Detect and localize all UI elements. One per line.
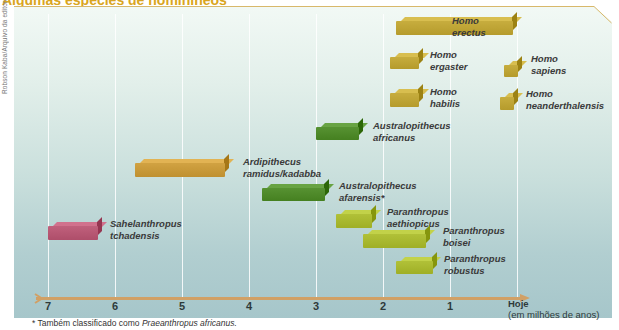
species-label-line2: afarensis*: [339, 192, 384, 203]
species-label-line1: Australopithecus: [373, 120, 451, 131]
species-bar: [504, 61, 522, 77]
species-label: Homosapiens: [531, 53, 566, 76]
species-label-line1: Paranthropus: [443, 225, 505, 236]
species-label: Ardipithecusramidus/kadabba: [243, 156, 321, 179]
species-label: Australopithecusafarensis*: [339, 180, 417, 203]
species-bar: [363, 230, 430, 248]
footnote-italic: Praeanthropus africanus.: [142, 318, 237, 328]
species-bar: [316, 123, 363, 140]
species-label-line2: neanderthalensis: [526, 100, 604, 111]
axis-tail-icon: [34, 293, 44, 304]
species-label: Paranthropusrobustus: [444, 253, 506, 276]
species-label-line2: tchadensis: [110, 230, 160, 241]
species-bar: [396, 257, 436, 274]
species-label-line2: africanus: [373, 132, 415, 143]
species-label-line2: ergaster: [430, 61, 468, 72]
grid-line: [115, 14, 116, 299]
species-label-line1: Homo: [430, 49, 457, 60]
species-label-line2: boisei: [443, 237, 470, 248]
species-label-line1: Homo: [531, 53, 558, 64]
image-credit: Robson Kaba/Arquivo da editora: [1, 14, 11, 94]
grid-line: [517, 14, 518, 299]
species-label: Homoneanderthalensis: [526, 88, 604, 111]
species-bar: [262, 184, 329, 201]
species-bar: [48, 222, 102, 240]
species-label-line1: Australopithecus: [339, 180, 417, 191]
species-label: Paranthropusaethiopicus: [387, 206, 449, 229]
tick-label: 7: [45, 300, 51, 312]
grid-line: [48, 14, 49, 299]
species-label: Homoergaster: [430, 49, 468, 72]
tick-label: 4: [246, 300, 252, 312]
species-bar: [390, 53, 424, 69]
tick-label: 5: [179, 300, 185, 312]
footnote-text: * Também classificado como: [32, 318, 142, 328]
species-bar: [135, 159, 229, 177]
species-label-line2: erectus: [452, 27, 486, 38]
grid-line: [383, 14, 384, 299]
species-label-line1: Homo: [526, 88, 553, 99]
species-label: Sahelanthropustchadensis: [110, 218, 182, 241]
species-label-line1: Homo: [452, 15, 479, 26]
species-bar: [390, 89, 424, 107]
footnote: * Também classificado como Praeanthropus…: [32, 318, 237, 328]
species-label-line2: sapiens: [531, 65, 566, 76]
species-label-line1: Homo: [430, 86, 457, 97]
tick-label: 6: [112, 300, 118, 312]
species-label-line2: robustus: [444, 265, 485, 276]
species-label-line2: habilis: [430, 98, 460, 109]
today-label: Hoje: [508, 298, 529, 309]
species-label: Homoerectus: [452, 15, 486, 38]
species-label-line1: Ardipithecus: [243, 156, 301, 167]
axis-end-label: Hoje (em milhões de anos): [508, 298, 599, 320]
species-bar: [336, 210, 376, 228]
tick-label: 1: [447, 300, 453, 312]
tick-label: 2: [380, 300, 386, 312]
unit-label: (em milhões de anos): [508, 309, 599, 320]
species-bar: [500, 93, 518, 110]
species-label-line1: Paranthropus: [387, 206, 449, 217]
species-label-line2: ramidus/kadabba: [243, 168, 321, 179]
species-label-line1: Sahelanthropus: [110, 218, 182, 229]
species-label-line2: aethiopicus: [387, 218, 440, 229]
grid-line: [182, 14, 183, 299]
species-label: Homohabilis: [430, 86, 460, 109]
species-label-line1: Paranthropus: [444, 253, 506, 264]
tick-label: 3: [313, 300, 319, 312]
species-label: Paranthropusboisei: [443, 225, 505, 248]
species-label: Australopithecusafricanus: [373, 120, 451, 143]
